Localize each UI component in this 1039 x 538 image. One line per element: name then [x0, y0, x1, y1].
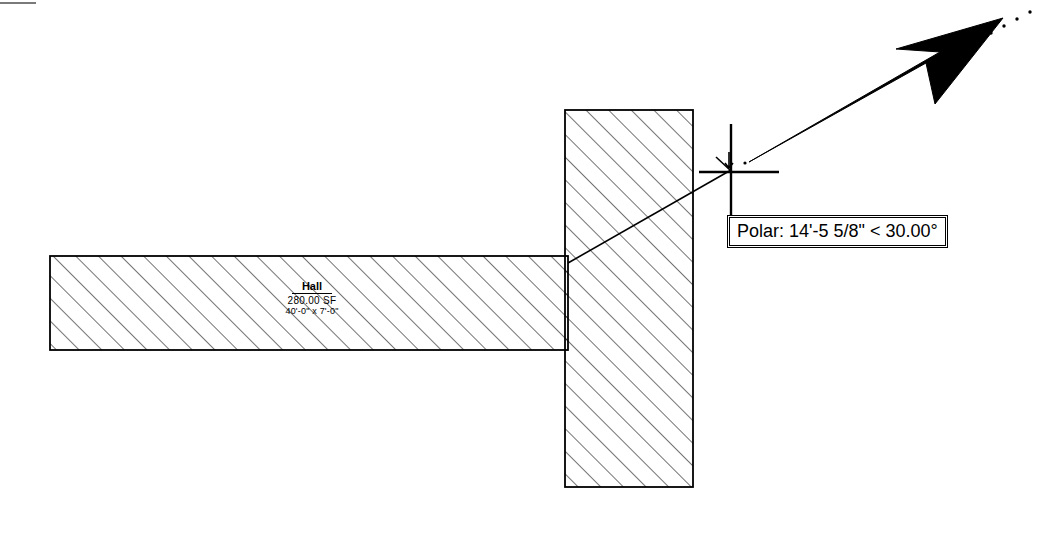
horizontal-wall-hatch-fill — [50, 256, 568, 350]
mouse-pointer-arrow — [749, 18, 1003, 162]
vertical-wall-hatch-fill — [565, 110, 693, 487]
cad-drawing-canvas[interactable]: Hall 280.00 SF 40'-0" x 7'-0" Polar: 14'… — [0, 0, 1039, 538]
horizontal-wall[interactable] — [50, 256, 568, 350]
crosshair-cursor — [699, 124, 779, 220]
vertical-wall[interactable] — [565, 110, 693, 487]
polar-tracking-tooltip: Polar: 14'-5 5/8" < 30.00° — [729, 217, 946, 246]
mouse-pointer-arrow-shape — [749, 18, 1003, 162]
drawing-area — [0, 0, 1039, 538]
registration-mark — [0, 2, 36, 4]
pickbox-dot — [743, 161, 746, 164]
